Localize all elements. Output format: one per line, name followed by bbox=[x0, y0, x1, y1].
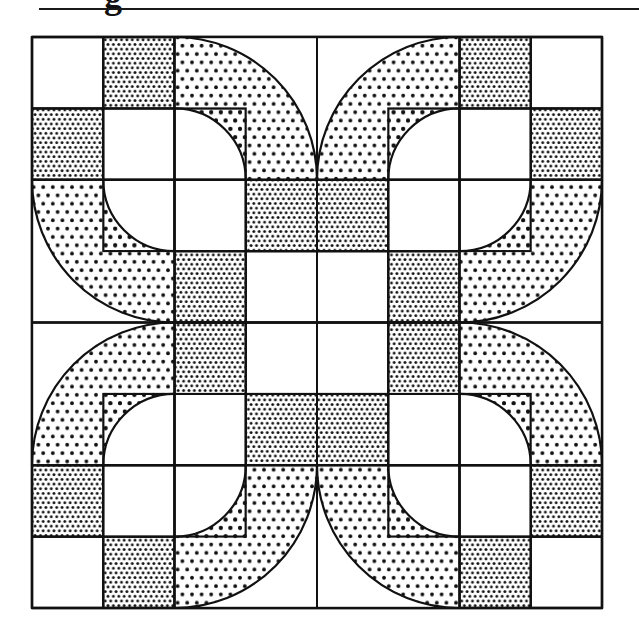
dense-dot-square bbox=[246, 180, 317, 251]
dense-dot-square bbox=[32, 108, 103, 179]
dense-dot-square bbox=[103, 537, 174, 608]
dense-dot-square bbox=[531, 108, 602, 179]
seam-lines bbox=[32, 37, 602, 608]
dense-dot-square bbox=[317, 394, 388, 465]
dense-dot-square bbox=[388, 251, 459, 322]
dense-dot-square bbox=[246, 394, 317, 465]
dense-dot-square bbox=[460, 537, 531, 608]
dense-dot-square bbox=[531, 465, 602, 536]
dense-dot-square bbox=[317, 180, 388, 251]
dense-dot-square bbox=[388, 323, 459, 394]
dense-dot-square bbox=[32, 465, 103, 536]
dense-dot-square bbox=[460, 37, 531, 108]
dense-dot-square bbox=[175, 251, 246, 322]
dense-dot-square bbox=[175, 323, 246, 394]
dense-dot-square bbox=[103, 37, 174, 108]
